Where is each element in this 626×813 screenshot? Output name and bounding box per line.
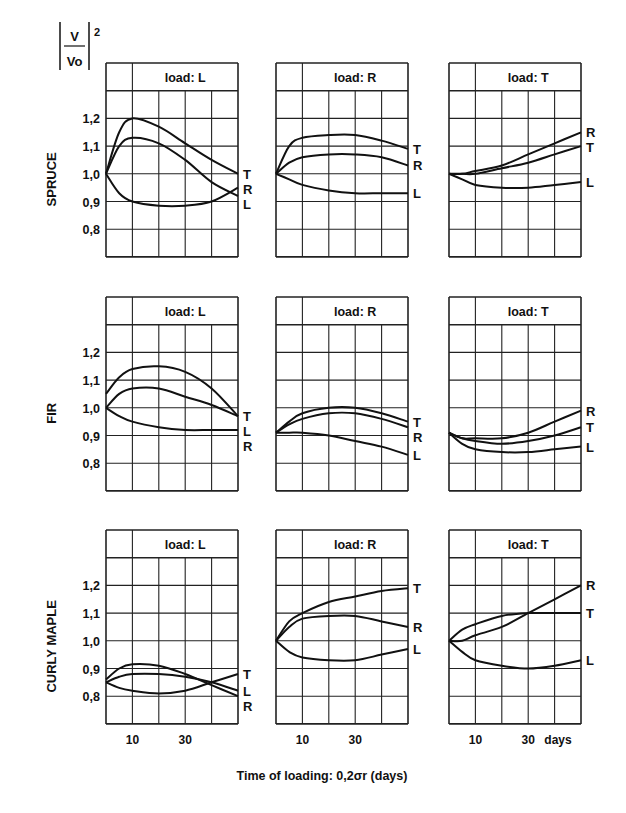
figure-canvas: V Vo 2 load: L1,21,11,00,90,8SPRUCETRLlo…: [0, 0, 626, 813]
y-tick-label: 0,9: [83, 663, 100, 677]
series-label-R: R: [586, 125, 596, 140]
panel-spruce-load-l: load: L1,21,11,00,90,8SPRUCETRL: [44, 63, 253, 257]
curve-L: [276, 174, 408, 194]
series-label-L: L: [413, 642, 421, 657]
series-label-R: R: [586, 578, 596, 593]
series-label-L: L: [243, 197, 251, 212]
series-label-L: L: [586, 440, 594, 455]
panel-title: load: T: [508, 71, 549, 85]
y-tick-label: 0,8: [83, 690, 100, 704]
ylabel-numerator: V: [70, 29, 79, 44]
series-label-R: R: [413, 430, 423, 445]
series-label-R: R: [243, 699, 253, 714]
y-tick-label: 1,2: [83, 346, 100, 360]
panel-title: load: R: [334, 71, 376, 85]
y-tick-label: 0,8: [83, 457, 100, 471]
row-label: FIR: [44, 402, 59, 424]
curve-L: [106, 388, 238, 417]
panel-spruce-load-r: load: RTRL: [276, 63, 423, 257]
x-unit-label: days: [544, 733, 572, 747]
series-label-T: T: [586, 606, 594, 621]
y-tick-label: 0,9: [83, 196, 100, 210]
y-tick-label: 1,2: [83, 112, 100, 126]
panel-fir-load-t: load: TRTL: [449, 297, 596, 491]
panel-title: load: L: [165, 538, 206, 552]
y-tick-label: 1,0: [83, 168, 100, 182]
y-tick-label: 1,2: [83, 579, 100, 593]
series-label-L: L: [586, 175, 594, 190]
series-label-R: R: [413, 158, 423, 173]
row-label: CURLY MAPLE: [44, 600, 59, 693]
curve-R: [276, 615, 408, 640]
series-label-T: T: [243, 667, 251, 682]
panel-title: load: R: [334, 538, 376, 552]
ylabel-denominator: Vo: [67, 54, 83, 69]
panel-curly-maple-load-r: load: RTRL: [276, 530, 423, 724]
panel-curly-maple-load-l: load: L1,21,11,00,90,8CURLY MAPLETLR: [44, 530, 253, 724]
x-tick-label: 10: [296, 733, 310, 747]
panel-fir-load-r: load: RTRL: [276, 297, 423, 491]
panel-title: load: L: [165, 71, 206, 85]
curve-L: [449, 174, 581, 188]
panel-title: load: R: [334, 305, 376, 319]
x-tick-label: 30: [522, 733, 536, 747]
y-tick-label: 1,1: [83, 140, 100, 154]
series-label-L: L: [413, 448, 421, 463]
series-label-T: T: [586, 140, 594, 155]
series-label-L: L: [586, 653, 594, 668]
panel-fir-load-l: load: L1,21,11,00,90,8FIRTLR: [44, 297, 253, 491]
curve-L: [449, 641, 581, 669]
curve-L: [276, 641, 408, 661]
series-label-L: L: [243, 684, 251, 699]
y-tick-label: 1,0: [83, 635, 100, 649]
y-tick-label: 1,1: [83, 607, 100, 621]
curve-T: [449, 613, 581, 641]
curve-R: [106, 408, 238, 430]
x-tick-label: 10: [126, 733, 140, 747]
series-label-R: R: [413, 620, 423, 635]
series-label-T: T: [413, 581, 421, 596]
series-label-T: T: [586, 420, 594, 435]
x-tick-labels: 103010301030: [126, 733, 535, 747]
y-tick-label: 0,8: [83, 223, 100, 237]
series-label-R: R: [243, 439, 253, 454]
panel-title: load: T: [508, 538, 549, 552]
series-label-L: L: [413, 186, 421, 201]
series-label-T: T: [413, 142, 421, 157]
x-tick-label: 30: [179, 733, 193, 747]
series-label-R: R: [243, 182, 253, 197]
panel-title: load: L: [165, 305, 206, 319]
series-label-T: T: [413, 415, 421, 430]
curve-R: [276, 154, 408, 174]
panel-title: load: T: [508, 305, 549, 319]
y-tick-label: 1,1: [83, 374, 100, 388]
series-label-T: T: [243, 409, 251, 424]
x-tick-label: 10: [469, 733, 483, 747]
y-axis-quantity-label: V Vo 2: [60, 22, 100, 70]
ylabel-exponent: 2: [94, 26, 100, 38]
panel-curly-maple-load-t: load: TRTL: [449, 530, 596, 724]
series-label-R: R: [586, 404, 596, 419]
x-axis-label: Time of loading: 0,2σr (days): [237, 769, 408, 783]
series-label-L: L: [243, 424, 251, 439]
y-tick-label: 0,9: [83, 430, 100, 444]
panel-grid: load: L1,21,11,00,90,8SPRUCETRLload: RTR…: [44, 63, 596, 724]
series-label-T: T: [243, 167, 251, 182]
y-tick-label: 1,0: [83, 402, 100, 416]
row-label: SPRUCE: [44, 152, 59, 207]
x-tick-label: 30: [349, 733, 363, 747]
panel-spruce-load-t: load: TRTL: [449, 63, 596, 257]
